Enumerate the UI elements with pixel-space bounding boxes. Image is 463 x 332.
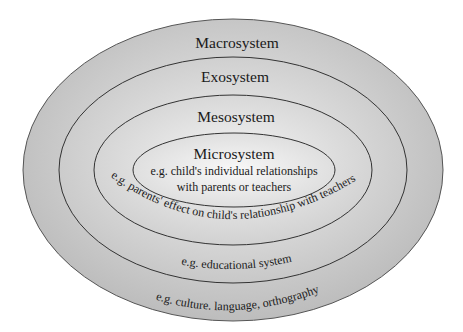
mesosystem-label: Mesosystem [197, 108, 275, 125]
microsystem-example-line2: with parents or teachers [177, 180, 292, 194]
exosystem-label: Exosystem [201, 68, 269, 85]
microsystem-label: Microsystem [194, 145, 275, 162]
ecological-systems-diagram: Macrosystem Exosystem Mesosystem Microsy… [0, 0, 463, 332]
macrosystem-label: Macrosystem [195, 34, 279, 51]
microsystem-example-line1: e.g. child's individual relationships [150, 164, 317, 178]
